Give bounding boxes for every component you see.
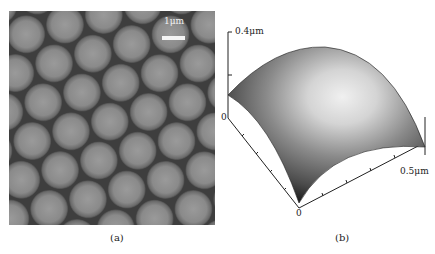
z-axis-origin-label: 0 (221, 112, 227, 122)
x-axis-max-label: 0.5μm (400, 166, 429, 176)
micrograph-panel-a (9, 11, 215, 225)
surface-plot-panel-b: 0.4μm 0 0 0.5μm (215, 0, 435, 230)
scale-bar-label: 1μm (164, 16, 184, 26)
caption-b: (b) (335, 232, 349, 243)
origin-label: 0 (296, 208, 302, 218)
z-axis-max-label: 0.4μm (235, 26, 264, 36)
scale-bar (162, 36, 185, 40)
caption-a: (a) (110, 232, 124, 243)
sphere-array-image (9, 11, 215, 225)
